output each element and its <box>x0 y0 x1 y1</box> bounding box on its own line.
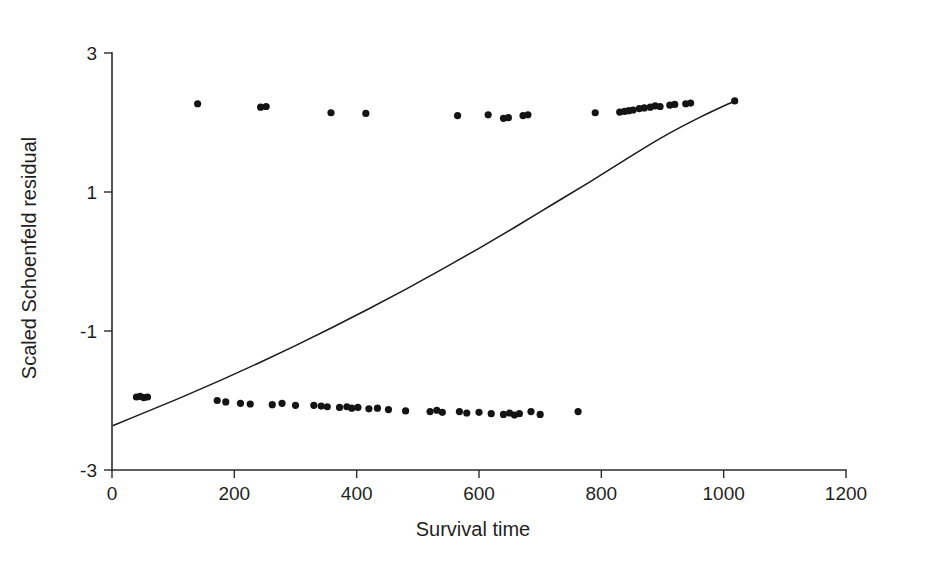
y-tick-label: 1 <box>86 182 97 203</box>
data-point <box>310 402 317 409</box>
x-tick-label: 1000 <box>703 483 745 504</box>
data-point <box>374 405 381 412</box>
data-point <box>263 103 270 110</box>
data-point <box>365 405 372 412</box>
x-tick-label: 1200 <box>825 483 867 504</box>
data-point <box>516 410 523 417</box>
data-point <box>269 401 276 408</box>
data-point <box>426 408 433 415</box>
data-point <box>278 400 285 407</box>
data-point <box>488 410 495 417</box>
data-point <box>537 411 544 418</box>
y-tick-label: 3 <box>86 43 97 64</box>
data-point <box>731 97 738 104</box>
data-point <box>630 106 637 113</box>
data-point <box>324 403 331 410</box>
x-tick-label: 200 <box>218 483 250 504</box>
data-point <box>237 400 244 407</box>
x-axis-title: Survival time <box>416 518 530 540</box>
data-point <box>336 404 343 411</box>
scatter-plot: 020040060080010001200-3-113 Survival tim… <box>0 0 947 568</box>
data-point <box>292 402 299 409</box>
data-point <box>527 408 534 415</box>
x-tick-label: 800 <box>585 483 617 504</box>
data-point <box>641 104 648 111</box>
data-point <box>318 402 325 409</box>
chart-figure: 020040060080010001200-3-113 Survival tim… <box>0 0 947 568</box>
data-point <box>463 409 470 416</box>
tick-labels-group: 020040060080010001200-3-113 <box>80 43 867 504</box>
x-tick-label: 600 <box>463 483 495 504</box>
data-point <box>348 405 355 412</box>
data-point <box>500 411 507 418</box>
axes-group <box>112 53 846 470</box>
data-point <box>144 393 151 400</box>
y-axis-title: Scaled Schoenfeld residual <box>18 137 40 379</box>
data-point <box>485 111 492 118</box>
data-point <box>327 109 334 116</box>
data-point <box>687 99 694 106</box>
data-point <box>656 103 663 110</box>
data-point <box>247 400 254 407</box>
data-point <box>574 408 581 415</box>
smooth-trend-curve <box>113 101 734 426</box>
data-point <box>505 114 512 121</box>
data-point <box>194 100 201 107</box>
data-point <box>592 109 599 116</box>
data-point <box>439 409 446 416</box>
data-point <box>222 398 229 405</box>
y-tick-label: -1 <box>80 321 97 342</box>
data-point <box>456 408 463 415</box>
x-tick-label: 0 <box>107 483 118 504</box>
data-point <box>402 407 409 414</box>
data-point <box>214 397 221 404</box>
x-tick-label: 400 <box>341 483 373 504</box>
trend-curve-path <box>113 101 734 426</box>
data-point <box>362 110 369 117</box>
data-point <box>385 406 392 413</box>
ticks-group <box>104 53 846 478</box>
y-tick-label: -3 <box>80 460 97 481</box>
data-point <box>454 112 461 119</box>
data-point <box>354 404 361 411</box>
data-point <box>475 409 482 416</box>
data-point <box>524 111 531 118</box>
data-point <box>671 101 678 108</box>
